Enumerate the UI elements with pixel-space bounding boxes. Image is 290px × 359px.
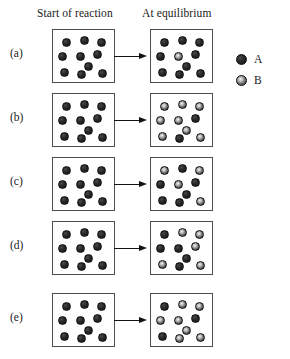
- particle-a: [80, 164, 89, 173]
- particle-b: [158, 132, 167, 141]
- reaction-arrow-icon: [114, 245, 148, 252]
- particle-b: [196, 197, 205, 206]
- particle-a: [62, 38, 71, 47]
- particle-b: [178, 228, 187, 237]
- particle-a: [60, 196, 69, 205]
- particle-a: [160, 38, 169, 47]
- particle-a: [97, 38, 106, 47]
- particle-b: [195, 230, 204, 239]
- particle-a: [175, 70, 184, 79]
- reaction-arrow-icon: [114, 117, 148, 124]
- particle-b: [174, 316, 183, 325]
- particle-a: [156, 52, 165, 61]
- particle-a: [60, 260, 69, 269]
- diagram-row: (e): [0, 292, 290, 348]
- particle-a: [93, 178, 102, 187]
- particle-b: [196, 333, 205, 342]
- particle-a: [76, 244, 85, 253]
- particle-a: [76, 116, 85, 125]
- particle-a: [156, 180, 165, 189]
- particle-a: [77, 262, 86, 271]
- legend: A B: [236, 52, 286, 94]
- particle-a: [175, 198, 184, 207]
- diagram-row: (c): [0, 156, 290, 212]
- particle-a: [84, 62, 93, 71]
- particle-b: [158, 260, 167, 269]
- particle-a: [158, 332, 167, 341]
- particle-b: [156, 116, 165, 125]
- row-label: (b): [10, 111, 23, 123]
- particle-a: [195, 38, 204, 47]
- particle-a: [98, 333, 107, 342]
- particle-a: [84, 126, 93, 135]
- start-box: [52, 293, 115, 347]
- particle-a: [58, 116, 67, 125]
- particle-a: [191, 314, 200, 323]
- equilibrium-figure: Start of reaction At equilibrium (a) (b)…: [0, 0, 290, 359]
- particle-b: [195, 102, 204, 111]
- particle-b: [191, 242, 200, 251]
- legend-item-a: A: [236, 52, 286, 73]
- particle-a: [77, 198, 86, 207]
- particle-a: [174, 244, 183, 253]
- particle-b: [174, 116, 183, 125]
- reaction-arrow-icon: [114, 317, 148, 324]
- particle-a: [93, 50, 102, 59]
- particle-a: [76, 52, 85, 61]
- particle-b: [178, 300, 187, 309]
- particle-a: [84, 326, 93, 335]
- particle-a: [98, 261, 107, 270]
- equilibrium-box: [150, 221, 213, 275]
- particle-a: [80, 36, 89, 45]
- particle-a: [93, 314, 102, 323]
- particle-a: [158, 196, 167, 205]
- particle-b: [195, 302, 204, 311]
- reaction-arrow-icon: [114, 53, 148, 60]
- particle-a: [97, 166, 106, 175]
- equilibrium-box: [150, 29, 213, 83]
- legend-swatch-b-icon: [236, 75, 247, 86]
- particle-a: [84, 254, 93, 263]
- header-start-of-reaction: Start of reaction: [37, 7, 113, 19]
- particle-a: [98, 69, 107, 78]
- particle-b: [160, 166, 169, 175]
- particle-b: [182, 126, 191, 135]
- particle-a: [160, 230, 169, 239]
- row-label: (d): [10, 239, 23, 251]
- particle-b: [196, 133, 205, 142]
- particle-a: [62, 166, 71, 175]
- legend-item-b: B: [236, 73, 286, 94]
- particle-b: [178, 100, 187, 109]
- particle-a: [62, 302, 71, 311]
- particle-a: [158, 68, 167, 77]
- particle-b: [182, 326, 191, 335]
- start-box: [52, 93, 115, 147]
- particle-a: [182, 254, 191, 263]
- particle-a: [182, 190, 191, 199]
- header-at-equilibrium: At equilibrium: [142, 7, 211, 19]
- particle-a: [77, 134, 86, 143]
- particle-a: [191, 50, 200, 59]
- particle-a: [93, 242, 102, 251]
- particle-a: [178, 164, 187, 173]
- particle-b: [195, 166, 204, 175]
- start-box: [52, 221, 115, 275]
- particle-a: [97, 230, 106, 239]
- particle-a: [58, 244, 67, 253]
- particle-a: [80, 228, 89, 237]
- particle-a: [77, 70, 86, 79]
- particle-a: [80, 100, 89, 109]
- start-box: [52, 29, 115, 83]
- legend-label-a: A: [254, 52, 262, 67]
- particle-a: [191, 114, 200, 123]
- particle-a: [97, 102, 106, 111]
- particle-a: [93, 114, 102, 123]
- legend-swatch-a-icon: [236, 54, 247, 65]
- particle-b: [174, 180, 183, 189]
- particle-a: [175, 134, 184, 143]
- particle-a: [175, 262, 184, 271]
- particle-a: [76, 316, 85, 325]
- particle-a: [58, 52, 67, 61]
- particle-a: [80, 300, 89, 309]
- particle-a: [62, 230, 71, 239]
